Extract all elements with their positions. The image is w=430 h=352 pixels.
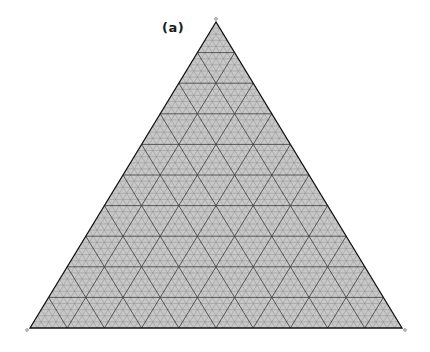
- panel-label: (a): [162, 20, 184, 35]
- ternary-diagram: [0, 0, 430, 352]
